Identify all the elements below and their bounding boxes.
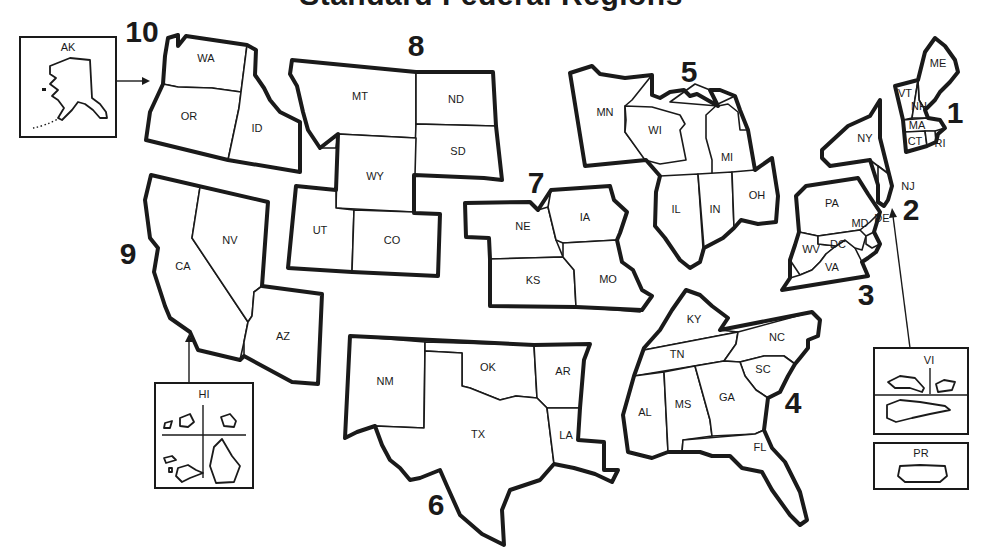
label-OH: OH (749, 189, 766, 201)
hawaii-inset: HI (155, 383, 253, 488)
region-number-5: 5 (681, 55, 698, 88)
region-number-8: 8 (408, 29, 425, 62)
label-WV: WV (802, 243, 820, 255)
label-NJ: NJ (901, 180, 914, 192)
federal-regions-map: AK WA OR ID 10 MT ND SD WY UT CO 8 (0, 0, 982, 548)
label-LA: LA (559, 429, 573, 441)
label-OR: OR (181, 110, 198, 122)
region-3: PA WV DC MD DE VA 3 (782, 178, 890, 311)
label-NH: NH (911, 100, 927, 112)
label-VT: VT (898, 87, 912, 99)
region-number-9: 9 (120, 237, 137, 270)
label-MS: MS (675, 398, 692, 410)
puerto-rico-inset: PR (874, 443, 968, 489)
label-DE: DE (874, 212, 889, 224)
label-ND: ND (448, 93, 464, 105)
region-4: KY TN NC SC AL MS GA FL 4 (623, 290, 820, 525)
label-SC: SC (755, 363, 770, 375)
region-number-7: 7 (528, 166, 545, 199)
region-number-10: 10 (125, 15, 158, 48)
state-NM (345, 336, 425, 438)
virgin-islands-inset: VI (874, 348, 968, 434)
alaska-label: AK (61, 41, 76, 53)
region-number-1: 1 (947, 96, 964, 129)
region-7: NE IA KS MO 7 (465, 166, 652, 312)
label-MT: MT (352, 90, 368, 102)
alaska-inset: AK (20, 37, 150, 137)
label-NE: NE (515, 220, 530, 232)
label-CA: CA (175, 260, 191, 272)
label-PA: PA (825, 197, 840, 209)
label-TX: TX (471, 428, 486, 440)
label-WA: WA (197, 52, 215, 64)
pr-label: PR (913, 447, 928, 459)
label-DC: DC (830, 238, 846, 250)
region-number-4: 4 (785, 386, 802, 419)
label-ID: ID (252, 122, 263, 134)
label-RI: RI (935, 137, 946, 149)
region-6: NM OK AR TX LA 6 (345, 336, 618, 545)
label-FL: FL (754, 441, 767, 453)
label-AR: AR (555, 365, 570, 377)
pr-vi-arrow (893, 216, 910, 348)
region-number-2: 2 (903, 193, 920, 226)
state-OR (146, 84, 241, 160)
label-WI: WI (648, 124, 661, 136)
label-NV: NV (222, 234, 238, 246)
hawaii-label: HI (199, 388, 210, 400)
label-MA: MA (909, 119, 926, 131)
label-NC: NC (769, 331, 785, 343)
label-CO: CO (384, 234, 401, 246)
region-1: ME VT NH MA CT RI 1 (895, 38, 963, 152)
label-ME: ME (930, 57, 947, 69)
label-TN: TN (670, 348, 685, 360)
label-IA: IA (580, 211, 591, 223)
label-NY: NY (857, 132, 873, 144)
region-number-3: 3 (858, 278, 875, 311)
label-AZ: AZ (276, 330, 290, 342)
label-IL: IL (671, 203, 680, 215)
label-VA: VA (825, 261, 840, 273)
region-number-6: 6 (428, 488, 445, 521)
label-KY: KY (687, 313, 702, 325)
label-CT: CT (908, 135, 923, 147)
label-MN: MN (596, 106, 613, 118)
state-IL (655, 174, 703, 268)
label-GA: GA (719, 391, 736, 403)
label-MI: MI (721, 151, 733, 163)
label-MD: MD (851, 217, 868, 229)
vi-label: VI (924, 354, 934, 366)
label-NM: NM (376, 375, 393, 387)
label-UT: UT (313, 224, 328, 236)
label-WY: WY (366, 170, 384, 182)
region-9: CA NV AZ 9 (120, 175, 322, 384)
label-IN: IN (710, 203, 721, 215)
label-SD: SD (450, 145, 465, 157)
label-KS: KS (526, 274, 541, 286)
label-MO: MO (599, 273, 617, 285)
region-10: WA OR ID 10 (125, 15, 300, 172)
label-AL: AL (638, 406, 651, 418)
label-OK: OK (480, 361, 497, 373)
